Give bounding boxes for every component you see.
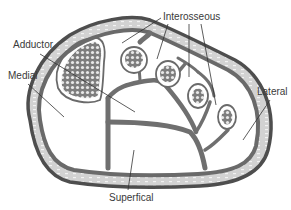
label-superficial: Superfical [109, 192, 153, 204]
label-lateral: Lateral [257, 86, 288, 98]
inner-cavity [39, 30, 258, 175]
hand-cross-section-diagram [0, 0, 291, 210]
label-medial: Medial [8, 70, 37, 82]
label-adductor: Adductor [13, 39, 53, 51]
label-interosseous: Interosseous [163, 11, 220, 23]
